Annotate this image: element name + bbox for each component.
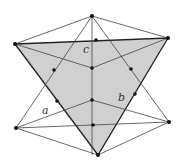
vertex-top (90, 14, 94, 18)
label-a: a (42, 104, 49, 117)
vertex-lower-left (14, 126, 18, 130)
point-right-b (133, 92, 137, 96)
vertex-lower-right (167, 120, 171, 124)
vertex-bottom (96, 153, 100, 157)
geometry-diagram: c a b (0, 0, 181, 167)
point-center-lower (90, 98, 94, 102)
point-right-a (129, 67, 133, 71)
shaded-triangle (15, 38, 168, 155)
vertex-left (13, 42, 17, 46)
point-bottom-mid (91, 123, 95, 127)
point-top-mid (94, 38, 98, 42)
thin-edges (15, 16, 169, 155)
point-left-a (52, 68, 56, 72)
point-center-upper (90, 66, 94, 70)
point-left-b (55, 99, 59, 103)
label-b: b (118, 91, 125, 104)
vertex-right (166, 36, 170, 40)
label-c: c (83, 43, 89, 56)
